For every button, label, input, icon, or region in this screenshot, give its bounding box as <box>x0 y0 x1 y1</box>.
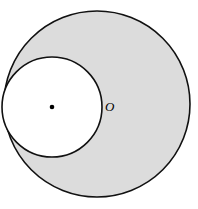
label-O: O <box>105 99 115 114</box>
inner-circle-center-dot <box>50 105 55 110</box>
figure-canvas: O <box>0 0 198 209</box>
geometry-figure: O <box>0 0 198 209</box>
